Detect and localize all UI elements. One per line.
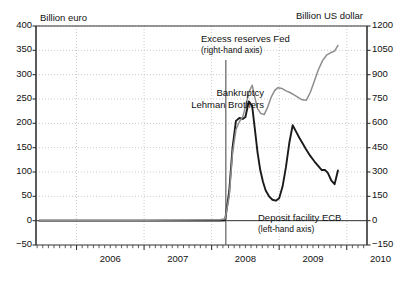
x-axis-tick-label: 2010	[370, 253, 391, 264]
right-axis-tick-label: 150	[372, 190, 403, 200]
annotation-lehman-line2: Lehman Brothers	[141, 99, 264, 111]
right-axis-tick-label: 450	[372, 142, 403, 152]
annotation-lehman-bankruptcy: Bankruptcy Lehman Brothers	[141, 87, 264, 111]
left-axis-tick-label: 400	[2, 20, 32, 30]
right-axis-tick-label: 600	[372, 117, 403, 127]
chart-container: Billion euro Billion US dollar Excess re…	[0, 0, 403, 281]
left-axis-tick-label: 250	[2, 93, 32, 103]
x-axis-tick-label: 2007	[167, 253, 188, 264]
annotation-lehman-line1: Bankruptcy	[216, 87, 264, 98]
right-axis-tick-label: 1050	[372, 44, 403, 54]
x-axis-tick-label: 2008	[235, 253, 256, 264]
annotation-deposit-facility-ecb: Deposit facility ECB (left-hand axis)	[258, 212, 341, 235]
right-axis-tick-label: 0	[372, 215, 403, 225]
x-axis-tick-label: 2009	[302, 253, 323, 264]
left-axis-tick-label: 0	[2, 215, 32, 225]
left-axis-tick-label: −50	[2, 239, 32, 249]
right-axis-tick-label: 1200	[372, 20, 403, 30]
left-axis-tick-label: 100	[2, 166, 32, 176]
annotation-ecb-line2: (left-hand axis)	[258, 224, 341, 235]
annotation-ecb-line1: Deposit facility ECB	[258, 212, 341, 223]
annotation-excess-reserves-fed: Excess reserves Fed (right-hand axis)	[201, 33, 290, 56]
right-axis-tick-label: 750	[372, 93, 403, 103]
annotation-fed-line2: (right-hand axis)	[201, 45, 290, 56]
x-axis-tick-label: 2006	[100, 253, 121, 264]
left-axis-tick-label: 200	[2, 117, 32, 127]
left-axis-tick-label: 150	[2, 142, 32, 152]
left-axis-tick-label: 50	[2, 190, 32, 200]
right-axis-tick-label: 300	[372, 166, 403, 176]
left-axis-tick-label: 350	[2, 44, 32, 54]
annotation-fed-line1: Excess reserves Fed	[201, 33, 290, 44]
left-axis-tick-label: 300	[2, 69, 32, 79]
right-axis-tick-label: −150	[372, 239, 403, 249]
right-axis-tick-label: 900	[372, 69, 403, 79]
